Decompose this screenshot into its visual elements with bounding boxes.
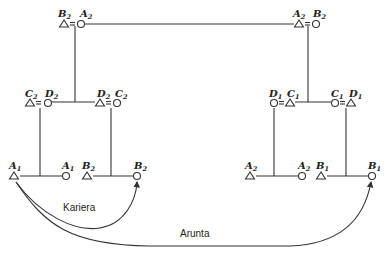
label: A1 xyxy=(61,160,74,173)
label: B2 xyxy=(133,160,147,173)
male-triangle-icon xyxy=(295,20,304,27)
label: C2 xyxy=(25,88,38,101)
label: B2 xyxy=(81,160,95,173)
male-triangle-icon xyxy=(317,172,326,179)
siblings-bottom-1: A1 A1 xyxy=(8,160,74,180)
label-top-right-female: B2 xyxy=(312,8,326,21)
label-top-right-male: A2 xyxy=(292,8,306,21)
female-circle-icon xyxy=(114,100,121,107)
label: D1 xyxy=(348,88,362,101)
siblings-bottom-3: A2 A2 xyxy=(244,160,311,180)
label: C1 xyxy=(287,88,300,101)
siblings-bottom-4: B1 B1 xyxy=(315,160,381,180)
female-circle-icon xyxy=(299,173,306,180)
female-circle-icon xyxy=(369,173,376,180)
male-triangle-icon xyxy=(60,20,69,27)
label: D2 xyxy=(44,88,59,101)
label: B1 xyxy=(315,160,329,173)
male-triangle-icon xyxy=(347,99,356,106)
couple-mid-right-2: C1 D1 xyxy=(331,88,362,107)
label-top-left-male: B2 xyxy=(57,8,71,21)
female-circle-icon xyxy=(313,21,320,28)
male-triangle-icon xyxy=(10,172,19,179)
label: B1 xyxy=(367,160,381,173)
female-circle-icon xyxy=(78,21,85,28)
label: A1 xyxy=(8,160,21,173)
couple-mid-left-2: D2 C2 xyxy=(96,88,128,107)
female-circle-icon xyxy=(332,100,339,107)
male-triangle-icon xyxy=(96,99,105,106)
male-triangle-icon xyxy=(246,172,255,179)
female-circle-icon xyxy=(63,173,70,180)
arunta-caption: Arunta xyxy=(180,228,210,239)
label: A2 xyxy=(244,160,258,173)
couple-mid-left-1: C2 D2 xyxy=(25,88,59,107)
male-triangle-icon xyxy=(286,99,295,106)
label-top-left-female: A2 xyxy=(79,8,93,21)
label: D1 xyxy=(268,88,282,101)
female-circle-icon xyxy=(134,173,141,180)
couple-top-left: B2 A2 xyxy=(57,8,93,28)
male-triangle-icon xyxy=(83,172,92,179)
couple-mid-right-1: D1 C1 xyxy=(268,88,300,107)
couple-top-right: A2 B2 xyxy=(292,8,326,28)
label: A2 xyxy=(297,160,311,173)
kariera-caption: Kariera xyxy=(63,202,96,213)
kinship-diagram: B2 A2 A2 B2 C2 D2 D2 C2 D1 C1 xyxy=(0,0,385,259)
female-circle-icon xyxy=(45,100,52,107)
siblings-bottom-2: B2 B2 xyxy=(81,160,147,180)
label: C1 xyxy=(331,88,344,101)
female-circle-icon xyxy=(271,100,278,107)
label: D2 xyxy=(96,88,111,101)
